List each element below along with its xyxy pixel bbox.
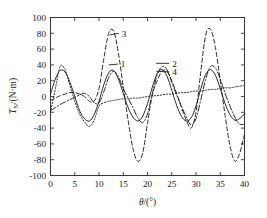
y-tick-label: 20 bbox=[37, 76, 47, 86]
y-axis-tick-labels: -100-80-60-40-20020406080100 bbox=[29, 13, 46, 181]
y-tick-label: -60 bbox=[34, 139, 47, 149]
chart-figure: 0510152025303540 -100-80-60-40-200204060… bbox=[0, 0, 267, 218]
x-tick-label: 10 bbox=[94, 179, 104, 189]
y-tick-label: -40 bbox=[34, 123, 47, 133]
y-axis-title: TN/(N·m) bbox=[8, 78, 19, 114]
x-tick-label: 15 bbox=[119, 179, 129, 189]
y-tick-label: -100 bbox=[29, 171, 46, 181]
x-axis-tick-labels: 0510152025303540 bbox=[48, 179, 249, 189]
y-axis-ticks bbox=[51, 18, 245, 176]
data-curves bbox=[51, 28, 245, 161]
x-tick-label: 40 bbox=[240, 179, 250, 189]
y-tick-label: 0 bbox=[41, 92, 46, 102]
y-tick-label: 80 bbox=[37, 29, 47, 39]
torque-angle-line-chart: 0510152025303540 -100-80-60-40-200204060… bbox=[0, 0, 267, 218]
x-tick-label: 0 bbox=[48, 179, 53, 189]
curve-label-4: 4 bbox=[172, 67, 177, 77]
x-tick-label: 20 bbox=[143, 179, 153, 189]
y-tick-label: 60 bbox=[37, 44, 47, 54]
plot-frame bbox=[51, 18, 245, 176]
curve-label-1: 1 bbox=[121, 59, 126, 69]
x-axis-title: θ/(°) bbox=[139, 197, 156, 208]
x-tick-label: 35 bbox=[216, 179, 226, 189]
y-tick-label: 40 bbox=[37, 60, 47, 70]
x-tick-label: 25 bbox=[167, 179, 177, 189]
y-tick-label: 100 bbox=[32, 13, 46, 23]
y-tick-label: -80 bbox=[34, 155, 47, 165]
x-tick-label: 30 bbox=[191, 179, 201, 189]
x-axis-ticks bbox=[51, 18, 245, 176]
curve-series-3 bbox=[51, 28, 245, 161]
curve-label-3: 3 bbox=[122, 29, 127, 39]
callout-leader-1 bbox=[109, 64, 118, 65]
y-tick-label: -20 bbox=[34, 108, 47, 118]
x-tick-label: 5 bbox=[72, 179, 77, 189]
